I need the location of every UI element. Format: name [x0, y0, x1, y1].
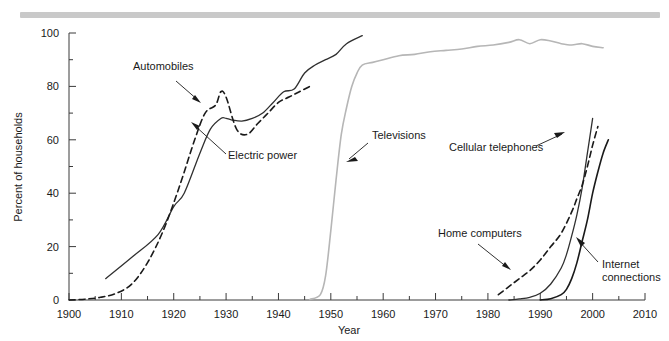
leader-home-computers — [478, 244, 511, 270]
x-axis-title: Year — [338, 324, 361, 336]
x-axis-tick-labels: 1900191019201930194019501960197019801990… — [57, 308, 657, 320]
leader-automobiles — [176, 81, 201, 103]
chart-svg: 020406080100 190019101920193019401950196… — [0, 0, 669, 341]
x-tick-label-1960: 1960 — [371, 308, 395, 320]
x-tick-label-2000: 2000 — [580, 308, 604, 320]
leader-internet-connections — [576, 237, 598, 262]
x-tick-label-1930: 1930 — [214, 308, 238, 320]
annotation-internet-connections: Internetconnections — [602, 258, 661, 283]
y-axis-title: Percent of households — [12, 112, 24, 222]
series-automobiles — [69, 86, 310, 300]
x-tick-label-1990: 1990 — [528, 308, 552, 320]
annotation-labels: AutomobilesElectric powerTelevisionsCell… — [133, 60, 661, 283]
annotation-cellular-telephones: Cellular telephones — [449, 141, 544, 153]
annotation-automobiles: Automobiles — [133, 60, 194, 72]
y-axis-tick-labels: 020406080100 — [41, 27, 59, 306]
leader-electric-power — [191, 122, 226, 154]
chart-figure: 020406080100 190019101920193019401950196… — [0, 0, 669, 341]
x-tick-label-1980: 1980 — [476, 308, 500, 320]
y-tick-label-100: 100 — [41, 27, 59, 39]
y-tick-label-0: 0 — [53, 294, 59, 306]
series-paths — [69, 36, 608, 300]
x-tick-label-1970: 1970 — [423, 308, 447, 320]
annotation-home-computers: Home computers — [438, 227, 522, 239]
annotation-leaders — [176, 81, 598, 270]
x-tick-label-1920: 1920 — [161, 308, 185, 320]
y-tick-label-20: 20 — [47, 241, 59, 253]
x-tick-label-1950: 1950 — [319, 308, 343, 320]
x-tick-label-2010: 2010 — [633, 308, 657, 320]
y-tick-label-40: 40 — [47, 187, 59, 199]
annotation-electric-power: Electric power — [228, 149, 297, 161]
x-tick-label-1940: 1940 — [266, 308, 290, 320]
x-tick-label-1900: 1900 — [57, 308, 81, 320]
y-tick-label-80: 80 — [47, 80, 59, 92]
series-internet-connections — [540, 140, 608, 300]
leader-televisions — [346, 143, 368, 162]
y-axis-ticks — [69, 33, 76, 300]
series-televisions — [310, 40, 603, 300]
annotation-televisions: Televisions — [372, 129, 426, 141]
y-tick-label-60: 60 — [47, 134, 59, 146]
x-tick-label-1910: 1910 — [109, 308, 133, 320]
